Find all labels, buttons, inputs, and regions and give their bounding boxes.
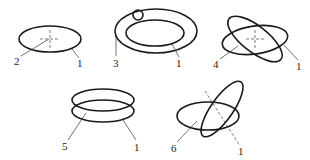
- figure-e: 6 1: [171, 76, 250, 157]
- label-right: 1: [296, 60, 302, 72]
- label-right: 1: [134, 141, 140, 153]
- leader-line-right: [123, 120, 136, 140]
- figure-c: 4 1: [213, 8, 302, 72]
- figure-a: 2 1: [14, 26, 83, 69]
- label-right: 1: [176, 57, 182, 69]
- label-right: 1: [77, 57, 83, 69]
- label-left: 4: [213, 58, 219, 70]
- dashed-axis: [205, 91, 240, 146]
- label-left: 3: [113, 57, 119, 69]
- inner-ellipse: [126, 20, 184, 46]
- label-left: 2: [14, 55, 20, 67]
- figure-b: 3 1: [113, 9, 197, 69]
- label-left: 5: [62, 140, 68, 152]
- leader-line-right: [284, 45, 298, 60]
- label-left: 6: [171, 142, 177, 154]
- figure-d: 5 1: [62, 89, 140, 153]
- ellipse-tilted: [194, 76, 250, 143]
- ellipse-tilted: [221, 8, 289, 69]
- leader-line-left: [177, 121, 197, 142]
- leader-line-left: [220, 46, 238, 59]
- label-right: 1: [238, 145, 244, 157]
- diagram-canvas: 2 1 3 1 4 1 5 1 6 1: [0, 0, 310, 160]
